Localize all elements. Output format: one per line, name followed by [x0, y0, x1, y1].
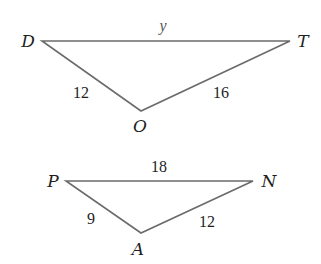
vertex-n-label: N	[261, 171, 278, 191]
side-ot-label: 16	[213, 84, 229, 101]
vertex-t-label: T	[297, 31, 310, 51]
side-pn-label: 18	[151, 158, 167, 175]
triangle-dot: D T O y 12 16	[20, 17, 310, 136]
side-dt-label: y	[157, 17, 167, 35]
side-pa-label: 9	[87, 210, 95, 227]
triangle-pan: P N A 18 9 12	[46, 158, 277, 259]
vertex-p-label: P	[46, 171, 59, 191]
vertex-o-label: O	[133, 116, 147, 136]
vertex-d-label: D	[20, 31, 35, 51]
similar-triangles-diagram: D T O y 12 16 P N A 18 9 12	[0, 0, 321, 264]
side-an-label: 12	[199, 213, 215, 230]
side-do-label: 12	[73, 84, 89, 101]
vertex-a-label: A	[130, 239, 144, 259]
